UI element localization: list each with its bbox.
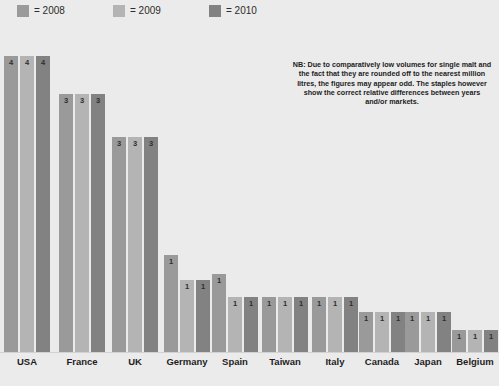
bar-value-label: 4 (4, 59, 18, 67)
bar-value-label: 1 (294, 300, 308, 308)
bar-stack: 111 (405, 56, 451, 352)
bar-group-belgium: 111Belgium (452, 56, 498, 352)
bar-value-label: 1 (405, 315, 419, 323)
bar-france-2008: 3 (59, 94, 73, 352)
bar-value-label: 1 (244, 300, 258, 308)
bar-italy-2010: 1 (344, 297, 358, 352)
bar-value-label: 3 (59, 97, 73, 105)
bar-value-label: 1 (359, 315, 373, 323)
bar-belgium-2010: 1 (484, 330, 498, 352)
bar-stack: 111 (262, 56, 308, 352)
bar-germany-2010: 1 (196, 280, 210, 352)
bar-taiwan-2009: 1 (278, 297, 292, 352)
bar-canada-2009: 1 (375, 312, 389, 352)
bar-value-label: 1 (437, 315, 451, 323)
bar-group-france: 333France (59, 56, 105, 352)
category-label-japan: Japan (405, 356, 451, 367)
bar-japan-2010: 1 (437, 312, 451, 352)
legend-label-2009: = 2009 (130, 5, 161, 17)
legend-swatch-2009 (113, 5, 125, 17)
category-label-taiwan: Taiwan (262, 356, 308, 367)
bar-spain-2009: 1 (228, 297, 242, 352)
bar-uk-2010: 3 (144, 137, 158, 352)
bar-value-label: 3 (128, 140, 142, 148)
bar-group-uk: 333UK (112, 56, 158, 352)
bar-value-label: 1 (468, 333, 482, 341)
bar-france-2010: 3 (91, 94, 105, 352)
category-label-italy: Italy (312, 356, 358, 367)
bar-belgium-2009: 1 (468, 330, 482, 352)
bar-value-label: 1 (278, 300, 292, 308)
legend-label-2010: = 2010 (226, 5, 257, 17)
bar-stack: 111 (359, 56, 405, 352)
bar-group-usa: 444USA (4, 56, 50, 352)
bar-value-label: 4 (36, 59, 50, 67)
bar-value-label: 1 (212, 277, 226, 285)
bar-value-label: 1 (344, 300, 358, 308)
bar-usa-2008: 4 (4, 56, 18, 352)
bar-italy-2009: 1 (328, 297, 342, 352)
bar-canada-2010: 1 (391, 312, 405, 352)
chart-plot-area: 444USA333France333UK111Germany111Spain11… (0, 22, 499, 386)
bar-value-label: 1 (312, 300, 326, 308)
bar-japan-2009: 1 (421, 312, 435, 352)
bar-value-label: 1 (262, 300, 276, 308)
bar-usa-2009: 4 (20, 56, 34, 352)
bar-taiwan-2010: 1 (294, 297, 308, 352)
bar-value-label: 1 (164, 258, 178, 266)
category-label-belgium: Belgium (452, 356, 498, 367)
bar-stack: 111 (312, 56, 358, 352)
chart-baseline (0, 352, 499, 353)
bar-group-taiwan: 111Taiwan (262, 56, 308, 352)
bar-group-germany: 111Germany (164, 56, 210, 352)
bar-value-label: 1 (452, 333, 466, 341)
bar-italy-2008: 1 (312, 297, 326, 352)
bar-value-label: 1 (375, 315, 389, 323)
bar-japan-2008: 1 (405, 312, 419, 352)
legend-swatch-2008 (17, 5, 29, 17)
bar-group-spain: 111Spain (212, 56, 258, 352)
bar-spain-2008: 1 (212, 274, 226, 352)
legend-swatch-2010 (209, 5, 221, 17)
bar-usa-2010: 4 (36, 56, 50, 352)
bar-value-label: 1 (421, 315, 435, 323)
category-label-germany: Germany (164, 356, 210, 367)
bar-value-label: 1 (180, 283, 194, 291)
bar-group-canada: 111Canada (359, 56, 405, 352)
legend-item-2009: = 2009 (113, 4, 161, 17)
bar-stack: 333 (59, 56, 105, 352)
chart-legend: = 2008 = 2009 = 2010 (0, 0, 499, 22)
bar-value-label: 3 (112, 140, 126, 148)
bar-france-2009: 3 (75, 94, 89, 352)
whisky-volume-bar-chart: = 2008 = 2009 = 2010 NB: Due to comparat… (0, 0, 499, 386)
legend-label-2008: = 2008 (34, 5, 65, 17)
bar-taiwan-2008: 1 (262, 297, 276, 352)
bar-germany-2009: 1 (180, 280, 194, 352)
bar-value-label: 1 (484, 333, 498, 341)
category-label-usa: USA (4, 356, 50, 367)
bar-value-label: 1 (196, 283, 210, 291)
category-label-france: France (59, 356, 105, 367)
bar-value-label: 3 (144, 140, 158, 148)
legend-item-2008: = 2008 (17, 4, 65, 17)
bar-value-label: 3 (91, 97, 105, 105)
bar-value-label: 4 (20, 59, 34, 67)
bar-value-label: 1 (228, 300, 242, 308)
legend-item-2010: = 2010 (209, 4, 257, 17)
bar-stack: 444 (4, 56, 50, 352)
bar-canada-2008: 1 (359, 312, 373, 352)
bar-belgium-2008: 1 (452, 330, 466, 352)
bar-group-japan: 111Japan (405, 56, 451, 352)
bar-stack: 333 (112, 56, 158, 352)
category-label-spain: Spain (212, 356, 258, 367)
bar-value-label: 3 (75, 97, 89, 105)
bar-uk-2009: 3 (128, 137, 142, 352)
category-label-uk: UK (112, 356, 158, 367)
bar-spain-2010: 1 (244, 297, 258, 352)
bar-value-label: 1 (328, 300, 342, 308)
bar-stack: 111 (164, 56, 210, 352)
category-label-canada: Canada (359, 356, 405, 367)
bar-germany-2008: 1 (164, 255, 178, 352)
bar-value-label: 1 (391, 315, 405, 323)
bar-stack: 111 (452, 56, 498, 352)
